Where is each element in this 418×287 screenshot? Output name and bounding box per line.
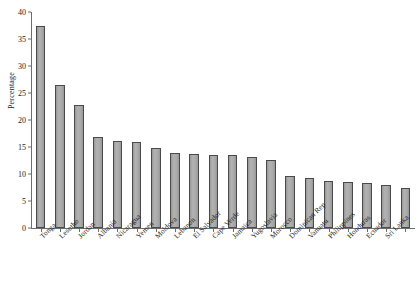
y-axis-title: Percentage [7, 56, 16, 126]
x-axis-labels: TongaLesothoJordanAlbaniaNicaraguaYemenM… [31, 234, 415, 287]
y-axis-tick: 35 [18, 35, 31, 44]
y-axis-tick: 10 [18, 170, 31, 179]
y-axis-tick-label: 15 [18, 143, 28, 152]
y-axis-tick: 20 [18, 116, 31, 125]
y-axis-tick: 0 [22, 224, 31, 233]
bar [151, 148, 161, 228]
bar [36, 26, 46, 228]
y-axis-tick-label: 25 [18, 89, 28, 98]
y-axis-tick: 40 [18, 8, 31, 17]
y-axis-tick-label: 35 [18, 35, 28, 44]
y-axis-tick-label: 40 [18, 8, 28, 17]
y-axis-tick: 5 [22, 197, 31, 206]
y-axis-tick-label: 10 [18, 170, 28, 179]
bar [113, 141, 123, 228]
y-axis-tick: 30 [18, 62, 31, 71]
bar [74, 105, 84, 228]
bar [55, 85, 65, 228]
y-axis-tick-label: 20 [18, 116, 28, 125]
x-axis-tick-mark [405, 229, 406, 232]
bars-layer [31, 12, 415, 228]
y-axis-tick-label: 30 [18, 62, 28, 71]
y-axis-tick: 25 [18, 89, 31, 98]
bar-chart: Percentage 0510152025303540 TongaLesotho… [0, 0, 418, 287]
bar [93, 137, 103, 228]
y-axis-tick: 15 [18, 143, 31, 152]
